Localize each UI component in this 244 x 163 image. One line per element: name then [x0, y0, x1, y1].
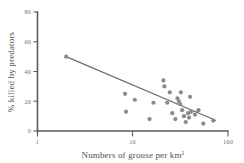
x-axis-title: Numbers of grouse per km2 — [81, 150, 184, 160]
data-point — [161, 78, 165, 82]
data-point — [188, 95, 192, 99]
data-point — [193, 113, 197, 117]
data-point — [196, 108, 200, 112]
data-point — [173, 117, 177, 121]
data-point — [184, 120, 188, 124]
data-point — [151, 101, 155, 105]
chart-figure: 80 60 40 20 0 1 10 100 Numbers of grouse… — [0, 0, 244, 163]
data-point — [189, 110, 193, 114]
x-axis-title-text: Numbers of grouse per km — [81, 150, 181, 160]
x-axis-ticks — [38, 131, 229, 137]
y-tick-label-40: 40 — [24, 68, 31, 75]
data-point — [162, 84, 166, 88]
y-tick-label-0: 0 — [28, 127, 31, 134]
data-point — [201, 121, 205, 125]
x-tick-label-10: 10 — [129, 138, 136, 145]
x-tick-label-100: 100 — [223, 138, 233, 145]
y-tick-label-20: 20 — [24, 98, 31, 105]
y-tick-label-60: 60 — [24, 38, 31, 45]
scatter-plot-svg: 80 60 40 20 0 1 10 100 Numbers of grouse… — [0, 0, 244, 163]
regression-trend-line — [66, 57, 216, 121]
data-point — [165, 101, 169, 105]
y-axis-title: % killed by predators — [6, 31, 16, 112]
x-tick-label-1: 1 — [36, 138, 39, 145]
data-point — [147, 117, 151, 121]
y-tick-label-80: 80 — [24, 8, 31, 15]
data-point — [187, 116, 191, 120]
data-point — [168, 90, 172, 94]
data-point — [64, 55, 68, 59]
data-point — [133, 98, 137, 102]
x-axis-title-superscript: 2 — [182, 150, 185, 156]
data-point — [124, 110, 128, 114]
data-point — [170, 111, 174, 115]
data-point — [179, 90, 183, 94]
data-point — [123, 92, 127, 96]
data-point — [180, 108, 184, 112]
data-point — [182, 114, 186, 118]
data-point — [211, 118, 215, 122]
data-point — [178, 102, 182, 106]
